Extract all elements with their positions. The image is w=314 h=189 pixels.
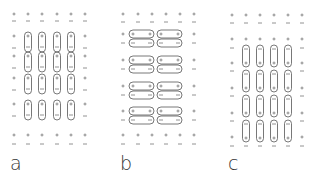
plus-charge-icon <box>287 62 290 65</box>
plus-charge-icon <box>177 33 180 36</box>
plus-charge-icon <box>245 62 248 65</box>
plus-charge-icon <box>301 14 304 17</box>
plus-charge-icon <box>245 38 248 41</box>
plus-charge-icon <box>13 13 16 16</box>
plus-charge-icon <box>301 62 304 65</box>
plus-charge-icon <box>231 14 234 17</box>
plus-charge-icon <box>132 33 135 36</box>
plus-charge-icon <box>259 14 262 17</box>
plus-charge-icon <box>84 134 87 137</box>
plus-charge-icon <box>70 103 73 106</box>
plus-charge-icon <box>245 87 248 90</box>
plus-charge-icon <box>132 85 135 88</box>
plus-charge-icon <box>165 134 168 137</box>
plus-charge-icon <box>149 59 152 62</box>
plus-charge-icon <box>259 112 262 115</box>
plus-charge-icon <box>179 134 182 137</box>
plus-charge-icon <box>56 77 59 80</box>
plus-charge-icon <box>70 55 73 58</box>
plus-charge-icon <box>193 59 196 62</box>
plus-charge-icon <box>245 137 248 140</box>
plus-charge-icon <box>122 33 125 36</box>
plus-charge-icon <box>193 85 196 88</box>
plus-charge-icon <box>122 59 125 62</box>
plus-charge-icon <box>84 55 87 58</box>
plus-charge-icon <box>245 14 248 17</box>
plus-charge-icon <box>287 38 290 41</box>
panel-b-diagram <box>105 0 205 160</box>
plus-charge-icon <box>70 134 73 137</box>
plus-charge-icon <box>132 59 135 62</box>
panel-a-diagram <box>0 0 100 160</box>
plus-charge-icon <box>41 13 44 16</box>
plus-charge-icon <box>231 38 234 41</box>
plus-charge-icon <box>137 134 140 137</box>
plus-charge-icon <box>177 110 180 113</box>
plus-charge-icon <box>273 137 276 140</box>
panel-c-diagram <box>210 0 314 160</box>
plus-charge-icon <box>273 62 276 65</box>
plus-charge-icon <box>132 110 135 113</box>
panel-label-a: a <box>10 152 22 174</box>
plus-charge-icon <box>231 87 234 90</box>
plus-charge-icon <box>287 14 290 17</box>
panel-a: a <box>0 0 100 189</box>
plus-charge-icon <box>160 59 163 62</box>
plus-charge-icon <box>165 13 168 16</box>
plus-charge-icon <box>27 103 30 106</box>
plus-charge-icon <box>27 13 30 16</box>
plus-charge-icon <box>301 38 304 41</box>
plus-charge-icon <box>193 13 196 16</box>
plus-charge-icon <box>84 103 87 106</box>
plus-charge-icon <box>149 85 152 88</box>
plus-charge-icon <box>56 134 59 137</box>
plus-charge-icon <box>27 55 30 58</box>
plus-charge-icon <box>273 38 276 41</box>
plus-charge-icon <box>41 103 44 106</box>
plus-charge-icon <box>177 85 180 88</box>
plus-charge-icon <box>160 110 163 113</box>
plus-charge-icon <box>287 112 290 115</box>
plus-charge-icon <box>273 14 276 17</box>
plus-charge-icon <box>41 55 44 58</box>
plus-charge-icon <box>70 77 73 80</box>
plus-charge-icon <box>122 85 125 88</box>
plus-charge-icon <box>84 77 87 80</box>
plus-charge-icon <box>122 110 125 113</box>
plus-charge-icon <box>41 35 44 38</box>
plus-charge-icon <box>273 87 276 90</box>
plus-charge-icon <box>259 137 262 140</box>
plus-charge-icon <box>301 87 304 90</box>
plus-charge-icon <box>27 77 30 80</box>
plus-charge-icon <box>13 35 16 38</box>
plus-charge-icon <box>259 87 262 90</box>
plus-charge-icon <box>179 13 182 16</box>
plus-charge-icon <box>149 110 152 113</box>
plus-charge-icon <box>193 33 196 36</box>
plus-charge-icon <box>160 85 163 88</box>
plus-charge-icon <box>273 112 276 115</box>
plus-charge-icon <box>287 137 290 140</box>
panel-c: c <box>210 0 314 189</box>
panel-label-b: b <box>120 152 132 174</box>
plus-charge-icon <box>56 103 59 106</box>
plus-charge-icon <box>287 87 290 90</box>
plus-charge-icon <box>27 134 30 137</box>
plus-charge-icon <box>137 13 140 16</box>
plus-charge-icon <box>231 136 234 139</box>
plus-charge-icon <box>56 13 59 16</box>
plus-charge-icon <box>122 134 125 137</box>
plus-charge-icon <box>151 134 154 137</box>
panel-label-c: c <box>228 152 238 174</box>
plus-charge-icon <box>301 136 304 139</box>
plus-charge-icon <box>151 13 154 16</box>
plus-charge-icon <box>231 112 234 115</box>
plus-charge-icon <box>193 134 196 137</box>
plus-charge-icon <box>231 62 234 65</box>
plus-charge-icon <box>301 112 304 115</box>
plus-charge-icon <box>13 134 16 137</box>
plus-charge-icon <box>160 33 163 36</box>
plus-charge-icon <box>56 35 59 38</box>
panel-b: b <box>105 0 205 189</box>
plus-charge-icon <box>149 33 152 36</box>
